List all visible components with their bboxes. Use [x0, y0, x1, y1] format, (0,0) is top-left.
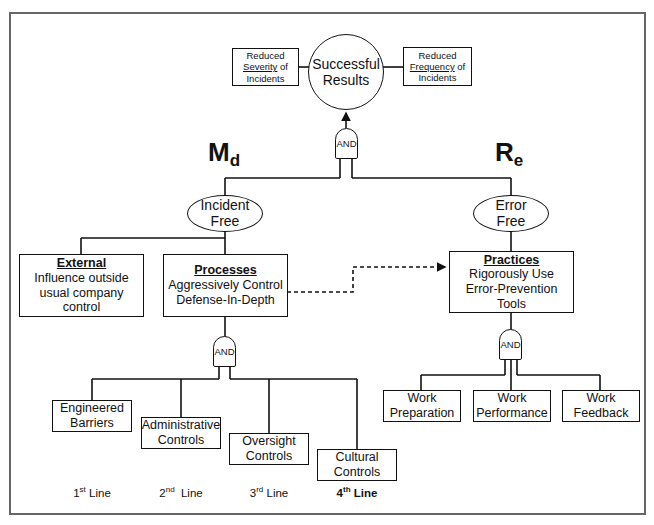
control-4-line2: Controls [334, 465, 381, 480]
line-2-text: Line [175, 487, 203, 499]
work-preparation-box: Work Preparation [383, 390, 461, 422]
successful-results-node: Successful Results [308, 34, 384, 110]
control-4-line1: Cultural [335, 450, 378, 465]
line-label-1: 1st Line [73, 485, 111, 499]
practices-box: Practices Rigorously Use Error-Preventio… [449, 251, 574, 313]
top-and-gate: AND [335, 128, 358, 159]
top-gate-label: AND [336, 138, 356, 149]
line-3-sup: rd [256, 485, 263, 494]
external-line2: usual company control [20, 286, 143, 316]
engineered-barriers-box: Engineered Barriers [52, 400, 132, 432]
line-label-4: 4th Line [337, 485, 378, 499]
control-1-line1: Engineered [60, 401, 124, 416]
frequency-line3: Incidents [418, 72, 456, 83]
outcome-line1: Successful [312, 56, 380, 72]
practices-line1: Rigorously Use [469, 267, 554, 282]
control-2-line1: Administrative [142, 418, 221, 433]
line-label-3: 3rd Line [250, 485, 288, 499]
re-symbol: Re [495, 137, 523, 171]
processes-gate-label: AND [214, 346, 234, 357]
re-main: R [495, 137, 514, 167]
work-2-line2: Performance [476, 406, 548, 421]
frequency-line2: Frequency of [410, 61, 465, 72]
practices-line2: Error-Prevention Tools [450, 282, 573, 312]
control-3-line1: Oversight [242, 434, 296, 449]
processes-and-gate: AND [213, 336, 236, 367]
work-1-line2: Preparation [390, 406, 455, 421]
work-performance-box: Work Performance [473, 390, 551, 422]
line-4-text: Line [351, 487, 378, 499]
re-sub: e [514, 151, 523, 170]
severity-line1: Reduced [246, 50, 284, 61]
incident-free-line2: Free [211, 214, 240, 229]
practices-gate-label: AND [500, 339, 520, 350]
incident-free-node: Incident Free [187, 195, 263, 232]
md-sub: d [230, 151, 240, 170]
cultural-controls-box: Cultural Controls [317, 449, 397, 481]
oversight-controls-box: Oversight Controls [229, 433, 309, 465]
reduced-severity-box: Reduced Severity of Incidents [232, 48, 299, 86]
md-main: M [208, 137, 230, 167]
line-4-sup: th [343, 485, 351, 494]
line-1-text: Line [86, 487, 111, 499]
work-feedback-box: Work Feedback [562, 390, 640, 422]
processes-title: Processes [194, 263, 257, 278]
error-free-line1: Error [495, 198, 526, 213]
outcome-line2: Results [323, 72, 370, 88]
processes-box: Processes Aggressively Control Defense-I… [163, 254, 288, 317]
practices-title: Practices [484, 253, 540, 268]
frequency-of: of [455, 61, 466, 72]
severity-keyword: Severity [243, 61, 277, 72]
line-label-2: 2nd Line [159, 485, 202, 499]
practices-and-gate: AND [499, 329, 522, 360]
external-title: External [57, 256, 106, 271]
control-3-line2: Controls [246, 449, 293, 464]
external-line1: Influence outside [34, 271, 129, 286]
severity-line3: Incidents [246, 73, 284, 84]
severity-of: of [277, 61, 288, 72]
line-2-sup: nd [166, 485, 175, 494]
severity-line2: Severity of [243, 61, 288, 72]
reduced-frequency-box: Reduced Frequency of Incidents [403, 47, 472, 86]
incident-free-line1: Incident [200, 198, 249, 213]
control-1-line2: Barriers [70, 416, 114, 431]
processes-line1: Aggressively Control [168, 278, 283, 293]
control-2-line2: Controls [158, 433, 205, 448]
work-2-line1: Work [498, 391, 527, 406]
line-3-text: Line [263, 487, 288, 499]
frequency-keyword: Frequency [410, 61, 455, 72]
md-symbol: Md [208, 137, 240, 171]
external-box: External Influence outside usual company… [19, 254, 144, 317]
frequency-line1: Reduced [418, 50, 456, 61]
processes-line2: Defense-In-Depth [176, 293, 275, 308]
work-1-line1: Work [408, 391, 437, 406]
error-free-line2: Free [497, 214, 526, 229]
work-3-line2: Feedback [574, 406, 629, 421]
administrative-controls-box: Administrative Controls [141, 417, 221, 449]
error-free-node: Error Free [473, 195, 549, 232]
work-3-line1: Work [587, 391, 616, 406]
